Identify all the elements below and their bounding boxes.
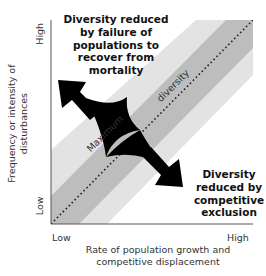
annotation-line: Diversity reduced (52, 13, 180, 26)
x-axis-title: Rate of population growth and competitiv… (78, 244, 238, 267)
y-axis-high-label: High (34, 22, 46, 46)
annotation-line: mortality (52, 64, 180, 77)
annotation-line: recover from (52, 51, 180, 64)
x-axis-high-label: High (227, 232, 249, 244)
diversity-disturbance-diagram: High Low Frequency or intensity of distu… (0, 0, 266, 276)
annotation-line: populations to (52, 39, 180, 52)
annotation-line: by failure of (52, 26, 180, 39)
y-axis-title-line2: disturbances (18, 54, 30, 194)
x-axis-title-line2: competitive displacement (78, 256, 238, 268)
annotation-line: exclusion (192, 206, 266, 219)
x-axis-title-line1: Rate of population growth and (78, 244, 238, 256)
annotation-line: reduced by (192, 181, 266, 194)
y-axis-title-line1: Frequency or intensity of (6, 54, 18, 194)
annotation-line: competitive (192, 194, 266, 207)
x-axis-low-label: Low (52, 232, 71, 244)
annotation-competitive-exclusion: Diversity reduced by competitive exclusi… (192, 168, 266, 219)
annotation-line: Diversity (192, 168, 266, 181)
annotation-recovery-failure: Diversity reduced by failure of populati… (52, 13, 180, 77)
y-axis-title: Frequency or intensity of disturbances (6, 54, 29, 194)
y-axis-low-label: Low (34, 194, 46, 218)
